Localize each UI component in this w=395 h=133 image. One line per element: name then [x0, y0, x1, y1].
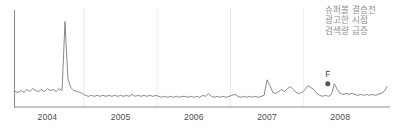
x-tick-label-2006: 2006: [184, 112, 204, 122]
marked-point-marker: [325, 81, 330, 86]
x-tick-label-2007: 2007: [257, 112, 277, 122]
annotation-line-2: 광고한 시점: [325, 15, 376, 25]
annotation-superbowl-note: 슈퍼볼 결승전 광고한 시점 검색량 급증: [325, 5, 376, 36]
data-point-marker-F: [325, 81, 330, 86]
x-tick-label-2008: 2008: [330, 112, 350, 122]
x-tick-label-2005: 2005: [111, 112, 131, 122]
annotation-line-3: 검색량 급증: [325, 26, 376, 36]
marked-point-label: F: [325, 70, 330, 79]
gridlines: [84, 8, 304, 107]
x-tick-label-2004: 2004: [38, 112, 58, 122]
search-volume-trend-chart: 슈퍼볼 결승전 광고한 시점 검색량 급증 F 2004200520062007…: [0, 0, 395, 133]
annotation-line-1: 슈퍼볼 결승전: [325, 5, 376, 15]
